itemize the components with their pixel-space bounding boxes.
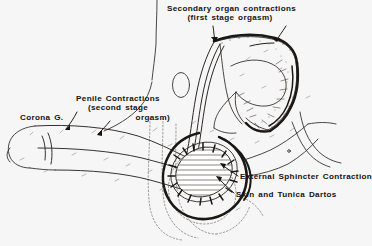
pubic-symphysis-oval (173, 73, 190, 98)
contraction-line-inner (269, 66, 293, 126)
label-penile-contractions: Penile Contractions (second stage orgasm… (66, 94, 170, 122)
gluteal-top-line (308, 123, 336, 125)
prostate-base-line (214, 128, 236, 133)
leader-secondary-hook (250, 43, 274, 46)
label-sphincter-text: External Sphincter Contraction (240, 172, 372, 181)
perineum-buttock-outlines (244, 112, 341, 176)
label-secondary-line2: (first stage orgasm) (167, 13, 293, 22)
urethra-double-line (186, 42, 224, 161)
buttock-outer-line (300, 112, 341, 163)
anatomy-figure-page: Secondary organ contractions (first stag… (0, 0, 372, 246)
label-corona-text: Corona G. (20, 113, 63, 122)
glans-bottom-outline (30, 168, 55, 170)
label-secondary-line1: Secondary organ contractions (167, 4, 296, 13)
label-secondary-organ-contractions: Secondary organ contractions (first stag… (167, 4, 293, 23)
label-dartos-text: Skin and Tunica Dartos (236, 190, 337, 199)
contraction-stipple-texture (221, 35, 298, 131)
arrowhead-penile (97, 130, 102, 136)
label-corona-glandis: Corona G. (20, 113, 76, 122)
label-penile-line3: orgasm) (66, 113, 170, 122)
buttock-crease-line (292, 122, 330, 167)
contraction-line-right (270, 63, 298, 131)
perineum-lower-line (248, 139, 318, 176)
shaft-ventral-line (55, 170, 190, 192)
dotted-scrotum-lower-right (216, 206, 250, 234)
glans-top-outline (13, 126, 35, 136)
prostate-lower-outline (235, 92, 268, 131)
urethra-inner-line-2 (196, 46, 224, 161)
anatomy-line-drawing (0, 0, 372, 246)
label-external-sphincter-contraction: External Sphincter Contraction (240, 172, 370, 181)
secondary-organ-contraction-contour (214, 35, 298, 132)
abdominal-wall-line (152, 0, 157, 80)
label-penile-line2: (second stage (66, 103, 170, 112)
prostate-contour (246, 118, 268, 130)
bladder-inner-left (220, 44, 242, 124)
body-outline-lines (7, 0, 190, 170)
label-penile-line1: Penile Contractions (76, 94, 160, 103)
glans-tip-outline (8, 136, 30, 168)
label-skin-and-tunica-dartos: Skin and Tunica Dartos (236, 190, 356, 199)
anus-marker (288, 150, 291, 153)
